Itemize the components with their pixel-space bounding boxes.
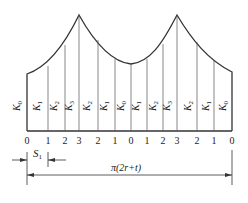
station-number: 0 bbox=[230, 135, 235, 146]
profile-curve bbox=[27, 15, 232, 131]
coefficient-label: K1 bbox=[200, 100, 213, 112]
station-numbers: 0123210123210 bbox=[25, 135, 235, 146]
s1-label: S1 bbox=[33, 147, 43, 161]
station-number: 2 bbox=[63, 135, 68, 146]
dimension-total: π(2r+t) bbox=[27, 150, 232, 185]
station-number: 2 bbox=[195, 135, 200, 146]
s1-arrowhead-right bbox=[48, 158, 55, 162]
station-number: 3 bbox=[77, 135, 82, 146]
station-number: 1 bbox=[113, 135, 118, 146]
s1-arrowhead-left bbox=[20, 158, 27, 162]
coefficient-label: K2 bbox=[81, 100, 94, 112]
coefficient-label: K0 bbox=[217, 100, 230, 112]
station-number: 0 bbox=[25, 135, 30, 146]
station-number: 2 bbox=[161, 135, 166, 146]
total-arrowhead-right bbox=[225, 173, 232, 177]
coefficient-label: K2 bbox=[48, 100, 61, 112]
coefficient-label: K0 bbox=[115, 100, 128, 112]
coefficient-label: K0 bbox=[11, 100, 24, 112]
dimension-s1: S1 bbox=[12, 147, 66, 185]
station-number: 2 bbox=[96, 135, 101, 146]
station-number: 1 bbox=[145, 135, 150, 146]
coefficient-label: K2 bbox=[182, 100, 195, 112]
coefficient-label: K1 bbox=[98, 100, 111, 112]
coefficient-label: K1 bbox=[31, 100, 44, 112]
station-number: 1 bbox=[46, 135, 51, 146]
station-number: 0 bbox=[129, 135, 134, 146]
station-number: 1 bbox=[212, 135, 217, 146]
coefficient-label: K1 bbox=[130, 100, 143, 112]
cam-profile-diagram: K0K1K2K3K2K1K0K1K2K3K2K1K0 0123210123210… bbox=[0, 0, 248, 203]
station-number: 3 bbox=[175, 135, 180, 146]
coefficient-label: K2 bbox=[147, 100, 160, 112]
total-label: π(2r+t) bbox=[111, 162, 142, 174]
total-arrowhead-left bbox=[27, 173, 34, 177]
